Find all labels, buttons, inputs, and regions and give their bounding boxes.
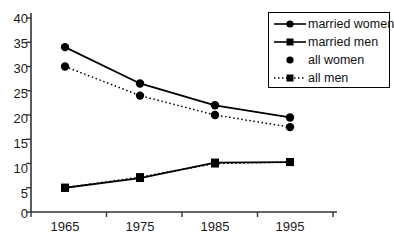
data-point-marker <box>211 101 219 109</box>
data-point-marker <box>211 111 219 119</box>
series-line <box>65 67 290 128</box>
legend-entry-married-men: married men <box>269 33 389 51</box>
legend-label: married women <box>308 16 394 32</box>
series-line <box>65 162 290 188</box>
dotted-line-square-marker-icon <box>272 70 308 86</box>
solid-line-circle-marker-icon <box>272 16 308 32</box>
series-married-women <box>61 43 294 122</box>
data-point-marker <box>61 43 69 51</box>
series-all-women <box>61 62 294 131</box>
legend: married women married men all women all … <box>268 12 390 88</box>
legend-label: all men <box>308 70 348 86</box>
data-point-marker <box>61 62 69 70</box>
legend-label: married men <box>308 34 378 50</box>
legend-label: all women <box>308 52 364 68</box>
data-point-marker <box>61 184 69 192</box>
data-point-marker <box>136 173 144 181</box>
data-series-layer <box>61 43 294 192</box>
series-married-men <box>61 158 294 192</box>
legend-entry-all-men: all men <box>269 69 389 87</box>
data-point-marker <box>136 91 144 99</box>
data-point-marker <box>136 79 144 87</box>
solid-line-square-marker-icon <box>272 34 308 50</box>
legend-entry-all-women: all women <box>269 51 389 69</box>
data-point-marker <box>286 113 294 121</box>
circle-marker-only-icon <box>272 52 308 68</box>
data-point-marker <box>286 158 294 166</box>
data-point-marker <box>211 160 219 168</box>
legend-entry-married-women: married women <box>269 15 389 33</box>
series-line <box>65 47 290 117</box>
data-point-marker <box>286 123 294 131</box>
